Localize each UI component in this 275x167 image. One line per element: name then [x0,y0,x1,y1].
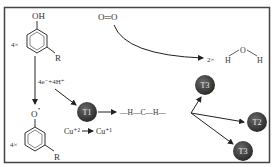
water-h1: H [225,56,231,65]
oxygen-radical-label: O [31,109,38,119]
water-coefficient: 2× [207,56,215,64]
product-substituent-r-label: R [54,152,60,162]
electron-transfer-label: 4e⁻+4H⁺ [38,78,65,86]
radical-dot: • [38,106,40,112]
t1-copper-node: T1 [77,102,97,122]
water-o: O [240,46,246,55]
t3-bottom-label: T3 [239,147,248,156]
phenol-reactant: OH R 4× [11,11,61,63]
t3-top-label: T3 [201,81,210,90]
oxygen-reduction-arrow [114,25,203,58]
t1-label: T1 [83,108,92,117]
t2-copper-node: T2 [247,112,267,132]
bridge-label: —H—C—H— [119,108,166,117]
branch-arrow-t3-bottom [191,113,233,144]
branch-arrow-t3-top [191,97,201,113]
cu1-label: Cu⁺¹ [96,127,113,136]
hydroxyl-label: OH [32,11,45,21]
laccase-mechanism-diagram: OH R 4× 4e⁻+4H⁺ O • R 4× O═O 2× H O H T1 [0,0,275,167]
electron-to-t1-arrow [55,89,76,105]
phenoxy-radical-product: O • R 4× [10,106,60,162]
reactant-coefficient: 4× [11,41,19,49]
water-product: 2× H O H [207,46,263,65]
t2-label: T2 [253,118,262,127]
product-coefficient: 4× [10,141,18,149]
cu2-label: Cu⁺² [64,127,81,136]
dioxygen-label: O═O [98,12,118,22]
branch-arrow-t2 [191,113,244,122]
t3-copper-node-bottom: T3 [233,141,253,161]
substituent-r-label: R [55,53,61,63]
water-h2: H [257,56,263,65]
t3-copper-node-top: T3 [195,75,215,95]
